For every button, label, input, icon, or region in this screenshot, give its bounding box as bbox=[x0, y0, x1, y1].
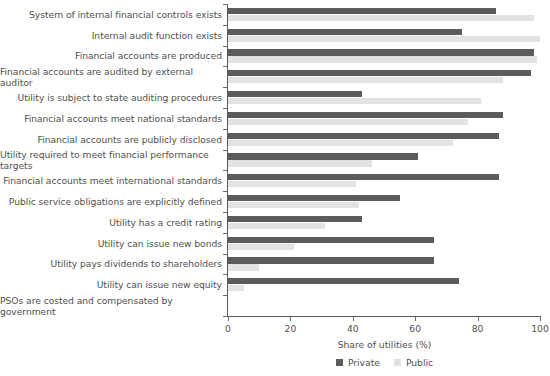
x-tick bbox=[415, 317, 416, 321]
x-tick-label: 40 bbox=[347, 323, 359, 334]
category-label: Financial accounts are publicly disclose… bbox=[0, 129, 222, 150]
x-tick-label: 80 bbox=[472, 323, 484, 334]
category-label: Utility is subject to state auditing pro… bbox=[0, 87, 222, 108]
legend-item-private: Private bbox=[336, 357, 380, 368]
x-tick-label: 0 bbox=[225, 323, 231, 334]
category-label: Public service obligations are explicitl… bbox=[0, 191, 222, 212]
bar-private bbox=[228, 91, 362, 97]
bar-public bbox=[228, 181, 356, 187]
bar-private bbox=[228, 216, 362, 222]
category-label: Internal audit function exists bbox=[0, 25, 222, 46]
bar-private bbox=[228, 49, 534, 55]
bar-public bbox=[228, 119, 468, 125]
bar-private bbox=[228, 153, 418, 159]
x-tick bbox=[478, 317, 479, 321]
bar-public bbox=[228, 285, 244, 291]
bar-private bbox=[228, 195, 400, 201]
x-axis-line bbox=[228, 316, 541, 317]
bar-public bbox=[228, 36, 540, 42]
bar-private bbox=[228, 237, 434, 243]
category-axis-labels: System of internal financial controls ex… bbox=[0, 4, 222, 316]
legend-swatch-public-icon bbox=[394, 359, 401, 366]
legend-label: Public bbox=[406, 357, 433, 368]
bar-private bbox=[228, 133, 499, 139]
legend-label: Private bbox=[348, 357, 380, 368]
category-label: Financial accounts meet international st… bbox=[0, 170, 222, 191]
bar-public bbox=[228, 264, 259, 270]
bar-public bbox=[228, 15, 534, 21]
bar-private bbox=[228, 112, 503, 118]
plot-area bbox=[228, 4, 540, 316]
category-label: Utility can issue new equity bbox=[0, 274, 222, 295]
x-tick-label: 60 bbox=[409, 323, 421, 334]
legend-item-public: Public bbox=[394, 357, 433, 368]
chart-legend: Private Public bbox=[228, 357, 541, 368]
category-label: Financial accounts are produced bbox=[0, 46, 222, 67]
category-label: Utility can issue new bonds bbox=[0, 233, 222, 254]
x-tick bbox=[540, 317, 541, 321]
horizontal-bar-chart: System of internal financial controls ex… bbox=[0, 0, 550, 376]
category-label: System of internal financial controls ex… bbox=[0, 4, 222, 25]
bar-public bbox=[228, 56, 537, 62]
category-label: PSOs are costed and compensated by gover… bbox=[0, 295, 222, 316]
x-tick bbox=[290, 317, 291, 321]
x-axis-title: Share of utilities (%) bbox=[228, 339, 541, 350]
category-label: Utility required to meet financial perfo… bbox=[0, 150, 222, 171]
x-tick-label: 100 bbox=[531, 323, 549, 334]
legend-swatch-private-icon bbox=[336, 359, 343, 366]
x-tick bbox=[228, 317, 229, 321]
bar-private bbox=[228, 257, 434, 263]
x-tick bbox=[353, 317, 354, 321]
category-label: Financial accounts are audited by extern… bbox=[0, 66, 222, 87]
bar-private bbox=[228, 70, 531, 76]
category-label: Utility pays dividends to shareholders bbox=[0, 254, 222, 275]
bar-public bbox=[228, 160, 372, 166]
bar-public bbox=[228, 202, 359, 208]
category-label: Utility has a credit rating bbox=[0, 212, 222, 233]
x-tick-label: 20 bbox=[285, 323, 297, 334]
category-label: Financial accounts meet national standar… bbox=[0, 108, 222, 129]
bar-public bbox=[228, 77, 503, 83]
bar-private bbox=[228, 29, 462, 35]
bar-public bbox=[228, 98, 481, 104]
bar-public bbox=[228, 244, 294, 250]
bar-private bbox=[228, 278, 459, 284]
bar-public bbox=[228, 223, 325, 229]
bar-private bbox=[228, 174, 499, 180]
bar-public bbox=[228, 140, 453, 146]
bar-private bbox=[228, 8, 496, 14]
